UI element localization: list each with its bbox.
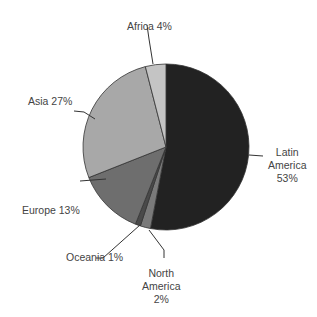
leader-north-america — [149, 230, 164, 258]
label-europe: Europe 13% — [22, 204, 80, 217]
label-north-america: North America 2% — [142, 267, 181, 306]
leader-latin-america — [249, 155, 263, 156]
label-africa: Africa 4% — [127, 20, 172, 33]
label-latin-america: Latin America 53% — [268, 146, 307, 185]
label-asia: Asia 27% — [28, 95, 72, 108]
label-oceania: Oceania 1% — [66, 251, 123, 264]
